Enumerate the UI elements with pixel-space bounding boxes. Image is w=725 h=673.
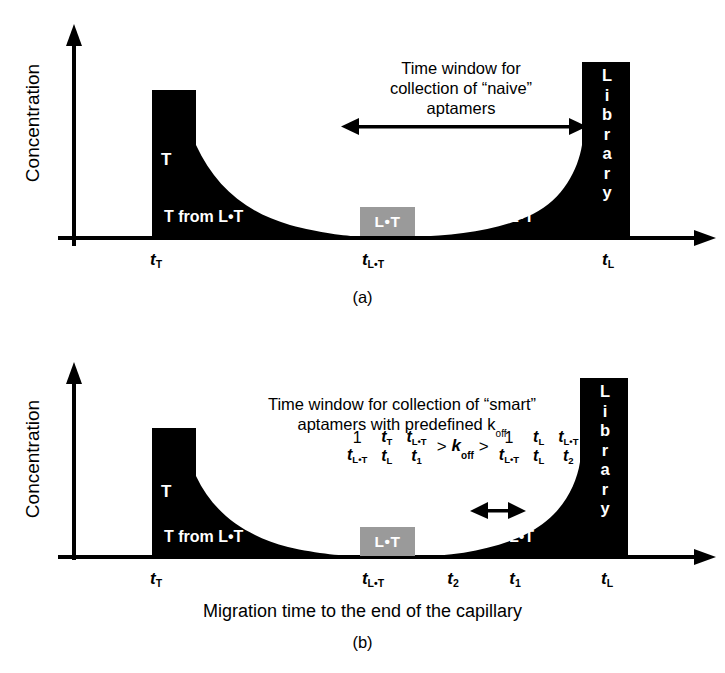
fraction-left-1: tT tL [379,428,394,466]
x-tick-a-1: tL•T [344,250,402,270]
panel-a: Concentration Time window for collection… [0,0,725,336]
y-axis [66,362,82,560]
x-tick-b-4: tL [585,569,629,589]
time-window-caption-a: Time window for collection of “naive” ap… [330,58,592,118]
fraction-right-1: tL tL [531,428,546,466]
figure-capillary-electrophoresis: Concentration Time window for collection… [0,0,725,673]
x-axis-label: Migration time to the end of the capilla… [0,601,725,622]
x-tick-a-0: tT [134,250,178,270]
peak-label-t-b: T [161,482,171,502]
x-tick-b-1: tL•T [344,569,402,589]
time-window-arrow-b [470,502,526,519]
time-window-arrow-a [341,118,587,135]
y-axis-label-a: Concentration [22,28,44,218]
panel-letter-b: (b) [0,633,725,652]
operator-greater-left: > [437,437,447,457]
complex-box-b: L•T [360,527,415,556]
x-tick-a-2: tL [586,250,630,270]
fraction-left-0: 1 tL•T [345,429,369,465]
y-axis-label-b: Concentration [22,364,44,554]
fraction-right-2: tL•T t2 [556,428,580,466]
left-tail-label-a: T from L•T [164,208,243,226]
x-tick-b-2: t2 [433,569,473,589]
library-label-a: Library [595,66,619,203]
library-label-b: Library [593,382,617,519]
fraction-left-2: tL•T t1 [404,428,428,466]
fraction-right-0: 1 tL•T [497,429,521,465]
panel-b: Concentration Time window for collection… [0,336,725,673]
koff-symbol: koff [452,436,474,457]
panel-letter-a: (a) [0,288,725,307]
complex-box-a: L•T [360,207,415,236]
x-tick-b-0: tT [134,569,178,589]
left-tail-label-b: T from L•T [164,528,243,546]
operator-greater-right: > [479,437,489,457]
y-axis [66,24,82,246]
koff-inequality-formula: 1 tL•T tT tL tL•T t1 > koff > 1 tL•T tL [340,428,585,466]
right-tail-label-b: L from L•T [455,528,534,546]
x-tick-b-3: t1 [495,569,535,589]
right-tail-label-a: L from L•T [455,208,534,226]
peak-label-t-a: T [161,150,171,170]
